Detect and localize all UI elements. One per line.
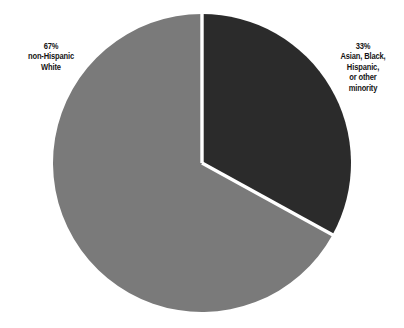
pie-label-line-2-right: Hispanic, — [325, 63, 400, 73]
pie-label-percent-left: 67% — [11, 42, 90, 52]
pie-label-non-hispanic-white: 67% non-Hispanic White — [11, 42, 90, 73]
pie-chart-figure: 67% non-Hispanic White 33% Asian, Black,… — [0, 0, 404, 328]
pie-label-line-2-left: White — [11, 63, 90, 73]
pie-label-line-1-right: Asian, Black, — [325, 52, 400, 62]
pie-label-percent-right: 33% — [325, 42, 400, 52]
pie-label-line-4-right: minority — [325, 84, 400, 94]
pie-label-minority: 33% Asian, Black, Hispanic, or other min… — [325, 42, 400, 94]
pie-label-line-1-left: non-Hispanic — [11, 52, 90, 62]
pie-label-line-3-right: or other — [325, 73, 400, 83]
